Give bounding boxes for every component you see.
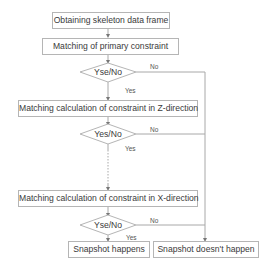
decision-3-label: Yse/No [88, 220, 128, 230]
edge-label-d1-no: No [150, 63, 158, 70]
node-x-direction-matching: Matching calculation of constraint in X-… [18, 190, 198, 207]
edge-label-d3-yes: Yes [126, 234, 137, 241]
node-label: Matching of primary constraint [53, 41, 168, 51]
node-label: Snapshot happens [73, 244, 145, 254]
decision-2-label: Yes/No [88, 129, 128, 139]
node-label: Obtaining skeleton data frame [54, 15, 169, 25]
edge-label-d1-yes: Yes [125, 87, 136, 94]
edge-label-d3-no: No [150, 217, 158, 224]
node-primary-constraint: Matching of primary constraint [42, 38, 179, 55]
decision-1-label: Yse/No [88, 67, 128, 77]
node-snapshot-happens: Snapshot happens [68, 241, 150, 258]
node-label: Matching calculation of constraint in X-… [19, 193, 199, 203]
node-z-direction-matching: Matching calculation of constraint in Z-… [18, 100, 198, 117]
edge-label-d2-no: No [150, 126, 158, 133]
edge-label-d2-yes: Yes [125, 145, 136, 152]
node-label: Snapshot doesn't happen [157, 244, 254, 254]
node-obtain-skeleton-frame: Obtaining skeleton data frame [52, 12, 170, 29]
node-snapshot-not-happen: Snapshot doesn't happen [153, 241, 259, 258]
node-label: Matching calculation of constraint in Z-… [19, 103, 198, 113]
